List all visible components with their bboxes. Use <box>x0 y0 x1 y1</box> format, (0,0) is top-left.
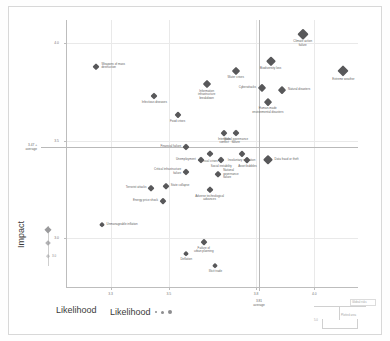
data-point[interactable] <box>183 143 190 150</box>
data-point-label: Data fraud or theft <box>275 159 299 163</box>
data-point-label: Failure of urban planning <box>194 247 214 254</box>
data-point-label: Biodiversity loss <box>260 67 281 71</box>
data-point-label: Unmanageable inflation <box>107 223 138 227</box>
y-average-sublabel: average <box>25 147 37 151</box>
data-point[interactable] <box>200 239 207 246</box>
data-point-label: Asset bubbles <box>238 165 257 169</box>
likelihood-legend-marker <box>168 310 172 314</box>
data-point-label: Terrorist attacks <box>126 186 147 190</box>
x-tick-label: 3.8 <box>254 292 259 296</box>
data-point-label: Food crises <box>170 120 185 124</box>
x-tick-mark <box>314 287 315 290</box>
data-point-label: National governance failure <box>223 169 238 180</box>
x-average-sublabel: average <box>253 303 265 307</box>
data-point-label: Global governance failure <box>223 138 248 145</box>
data-point-label: Energy price shock <box>133 199 158 203</box>
y-tick-mark <box>64 238 67 239</box>
data-point[interactable] <box>238 151 245 158</box>
data-point[interactable] <box>215 171 221 177</box>
data-point[interactable] <box>212 262 218 268</box>
annotation-mid-label: Plotted area <box>341 314 356 317</box>
data-point[interactable] <box>160 198 167 205</box>
data-point-label: Illicit trade <box>209 270 222 274</box>
data-point[interactable] <box>202 80 210 88</box>
x-tick-mark <box>111 287 112 290</box>
data-point[interactable] <box>266 56 275 65</box>
data-point-label: Cyberattacks <box>239 86 256 90</box>
x-gridline <box>314 20 315 287</box>
y-gridline <box>67 141 358 142</box>
data-point[interactable] <box>183 168 190 175</box>
data-point-label: Deflation <box>180 258 192 262</box>
chart-figure: Impact Likelihood 3.33.53.84.04.03.53.03… <box>0 0 390 341</box>
data-point[interactable] <box>92 63 100 71</box>
x-gridline <box>169 20 170 287</box>
data-point[interactable] <box>218 157 225 164</box>
corner-annotation: Global risks 5.0 Plotted area <box>314 295 376 329</box>
data-point-label: State collapse <box>171 184 190 188</box>
annotation-label: Global risks <box>350 299 376 306</box>
size-legend-marker <box>46 254 50 258</box>
data-point[interactable] <box>263 155 273 165</box>
x-gridline <box>111 20 112 287</box>
data-point-label: Water crises <box>228 76 244 80</box>
data-point-label: Information infrastructure breakdown <box>198 90 215 101</box>
plot-area: 3.33.53.84.04.03.53.03.81average3.47 +av… <box>66 20 358 288</box>
data-point[interactable] <box>278 86 286 94</box>
data-point-label: Infectious diseases <box>142 101 167 105</box>
size-legend-marker <box>45 240 51 246</box>
data-point-label: Extreme weather <box>332 78 354 82</box>
data-point[interactable] <box>174 112 181 119</box>
data-point-label: Climate action failure <box>293 40 312 47</box>
data-point[interactable] <box>232 129 239 136</box>
size-legend-marker <box>44 226 51 233</box>
data-point[interactable] <box>221 130 228 137</box>
y-tick-label: 3.5 <box>54 139 59 143</box>
x-tick-mark <box>169 287 170 290</box>
y-tick-label: 4.0 <box>54 41 59 45</box>
data-point-label: Natural disasters <box>288 88 310 92</box>
marker-size-legend: 3.0 <box>36 222 62 270</box>
x-average-label: 3.81average <box>253 299 265 307</box>
likelihood-legend-marker <box>161 311 164 314</box>
data-point[interactable] <box>99 222 105 228</box>
x-axis-title: Likelihood <box>56 305 97 315</box>
x-average-line <box>259 20 260 291</box>
likelihood-legend-label: Likelihood <box>110 307 151 317</box>
data-point[interactable] <box>148 184 154 190</box>
likelihood-legend: Likelihood <box>110 307 172 317</box>
x-tick-mark <box>256 287 257 290</box>
y-tick-mark <box>64 43 67 44</box>
y-tick-mark <box>64 141 67 142</box>
likelihood-legend-marker <box>155 311 157 313</box>
data-point-label: Human-made environmental disasters <box>252 107 283 114</box>
y-average-line <box>41 147 358 148</box>
annotation-hbar <box>314 306 366 307</box>
data-point-label: Critical infrastructure failure <box>154 168 181 175</box>
y-gridline <box>67 238 358 239</box>
y-average-label: 3.47 +average <box>25 143 37 151</box>
y-axis-title: Impact <box>16 221 26 248</box>
annotation-small-label: 5.0 <box>314 318 318 322</box>
data-point[interactable] <box>297 28 308 39</box>
data-point[interactable] <box>183 251 189 257</box>
x-gridline <box>256 20 257 287</box>
x-tick-label: 3.3 <box>108 292 113 296</box>
data-point-label: Involuntary migration <box>228 159 255 163</box>
data-point[interactable] <box>232 66 240 74</box>
data-point-label: Adverse technological advances <box>195 195 224 202</box>
y-gridline <box>67 43 358 44</box>
data-point-label: Unemployment <box>176 159 196 163</box>
data-point[interactable] <box>206 186 214 194</box>
x-tick-label: 3.5 <box>166 292 171 296</box>
data-point[interactable] <box>206 151 214 159</box>
data-point-label: Weapons of mass destruction <box>101 63 125 70</box>
data-point[interactable] <box>338 65 350 77</box>
data-point-label: Financial failure <box>160 145 181 149</box>
data-point[interactable] <box>264 98 272 106</box>
data-point[interactable] <box>151 92 158 99</box>
size-legend-tick-label: 3.0 <box>52 254 56 258</box>
annotation-box <box>322 319 358 329</box>
